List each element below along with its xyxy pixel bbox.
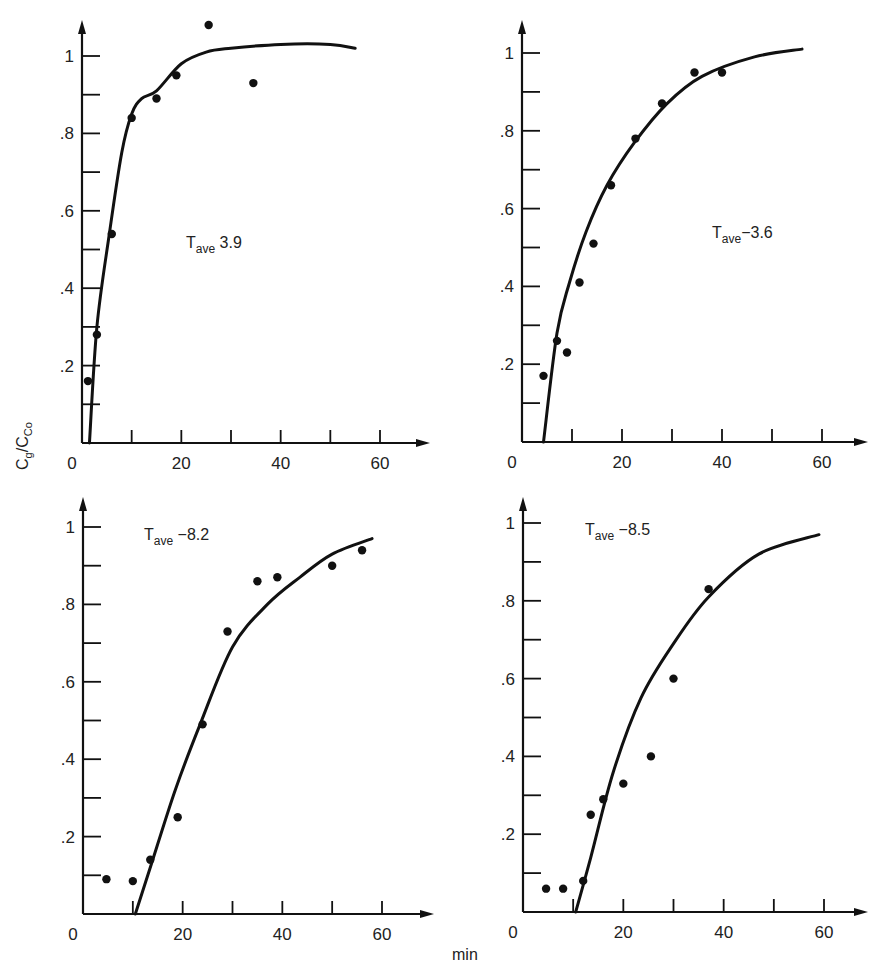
y-axis-arrow-icon (78, 20, 86, 34)
temperature-annotation: Tave −8.5 (585, 521, 650, 543)
data-point (127, 114, 135, 122)
y-tick-label: .6 (501, 670, 515, 689)
y-tick-label: .8 (500, 122, 514, 141)
data-point (173, 813, 181, 821)
y-axis-arrow-icon (518, 20, 526, 34)
data-point (328, 562, 336, 570)
y-tick-label: .6 (500, 200, 514, 219)
y-tick-label: .2 (500, 355, 514, 374)
x-tick-label: 40 (273, 925, 292, 944)
x-axis-arrow-icon (420, 910, 434, 918)
x-axis-arrow-icon (416, 439, 430, 447)
x-tick-label: 60 (813, 453, 832, 472)
data-point (93, 330, 101, 338)
y-tick-label: .8 (60, 124, 74, 143)
y-tick-label: .4 (501, 747, 515, 766)
data-point (669, 674, 677, 682)
y-tick-label: .8 (61, 595, 75, 614)
data-point (647, 752, 655, 760)
y-tick-label: 1 (65, 47, 74, 66)
fit-curve (135, 539, 372, 914)
data-point (553, 337, 561, 345)
data-point (658, 99, 666, 107)
data-point (84, 377, 92, 385)
data-point (587, 811, 595, 819)
temperature-annotation: Tave 3.9 (186, 234, 242, 256)
x-tick-label: 40 (714, 923, 733, 942)
x-axis-label: min (452, 946, 478, 964)
x-tick-label: 20 (173, 925, 192, 944)
data-point (559, 884, 567, 892)
data-point (358, 546, 366, 554)
x-tick-label: 60 (373, 925, 392, 944)
x-tick-label: 40 (271, 454, 290, 473)
data-point (704, 585, 712, 593)
data-point (690, 68, 698, 76)
y-tick-label: .6 (60, 202, 74, 221)
data-point (108, 230, 116, 238)
y-label-main: C (14, 458, 31, 470)
y-tick-label: 1 (505, 44, 514, 63)
data-point (589, 239, 597, 247)
data-point (198, 720, 206, 728)
y-axis-arrow-icon (79, 497, 87, 511)
y-tick-label: .2 (61, 828, 75, 847)
data-point (253, 577, 261, 585)
x-tick-label: 40 (713, 453, 732, 472)
data-point (718, 68, 726, 76)
data-point (129, 877, 137, 885)
chart-panel-bottom-right: .2.4.6.810204060Tave −8.5 (501, 497, 868, 942)
data-point (249, 79, 257, 87)
temperature-annotation: Tave −8.2 (144, 526, 209, 548)
data-point (152, 94, 160, 102)
x-tick-label: 20 (614, 923, 633, 942)
data-point (599, 795, 607, 803)
y-label-sub-g: g (22, 452, 34, 458)
x-tick-label: 0 (68, 925, 77, 944)
data-point (223, 627, 231, 635)
x-tick-label: 0 (507, 453, 516, 472)
data-point (542, 884, 550, 892)
chart-panel-top-left: .2.4.6.810204060Tave 3.9 (60, 20, 430, 473)
y-label-sep: /C (14, 436, 31, 452)
fit-curve (544, 49, 803, 442)
data-point (563, 348, 571, 356)
x-tick-label: 20 (613, 453, 632, 472)
data-point (146, 856, 154, 864)
fit-curve (576, 535, 819, 912)
y-tick-label: 1 (66, 518, 75, 537)
y-tick-label: .2 (60, 357, 74, 376)
data-point (607, 181, 615, 189)
x-tick-label: 60 (815, 923, 834, 942)
figure-canvas: .2.4.6.810204060Tave 3.9 .2.4.6.81020406… (0, 0, 877, 966)
y-tick-label: .2 (501, 825, 515, 844)
data-point (172, 71, 180, 79)
temperature-annotation: Tave−3.6 (712, 224, 773, 246)
data-point (102, 875, 110, 883)
y-label-sub-co: Co (22, 422, 34, 436)
y-tick-label: .4 (61, 750, 75, 769)
y-tick-label: .4 (60, 279, 74, 298)
data-point (273, 573, 281, 581)
data-point (204, 21, 212, 29)
x-tick-label: 60 (371, 454, 390, 473)
x-tick-label: 20 (172, 454, 191, 473)
x-axis-arrow-icon (854, 438, 868, 446)
data-point (575, 278, 583, 286)
y-tick-label: .6 (61, 673, 75, 692)
data-point (539, 372, 547, 380)
data-point (619, 779, 627, 787)
data-point (631, 134, 639, 142)
data-point (579, 877, 587, 885)
y-tick-label: .4 (500, 277, 514, 296)
x-tick-label: 0 (508, 923, 517, 942)
y-axis-label: Cg/CCo (14, 422, 34, 470)
y-tick-label: 1 (506, 514, 515, 533)
x-axis-arrow-icon (854, 908, 868, 916)
y-tick-label: .8 (501, 592, 515, 611)
y-axis-arrow-icon (519, 497, 527, 511)
chart-panel-bottom-left: .2.4.6.810204060Tave −8.2 (61, 497, 434, 944)
x-tick-label: 0 (67, 454, 76, 473)
chart-panel-top-right: .2.4.6.810204060Tave−3.6 (500, 20, 868, 472)
